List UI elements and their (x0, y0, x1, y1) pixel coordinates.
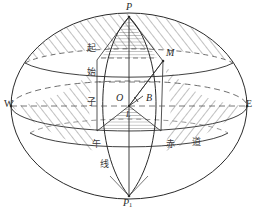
sphere-meridian-figure (0, 0, 258, 213)
label-east: E (246, 99, 252, 109)
prime-meridian-char-2: 子 (87, 98, 96, 107)
diagram-canvas: P P1 M O B L W E 起 始 子 午 线 赤 道 (0, 0, 258, 213)
label-point-b: B (146, 93, 152, 103)
label-north-pole: P (126, 2, 132, 12)
label-south-pole: P1 (123, 198, 132, 209)
label-point-l: L (126, 111, 130, 119)
label-point-m: M (166, 48, 174, 58)
equator-char-0: 赤 (166, 140, 175, 149)
prime-meridian-char-0: 起 (87, 44, 96, 53)
equator-char-1: 道 (192, 138, 201, 147)
label-west: W (4, 99, 13, 109)
prime-meridian-char-1: 始 (87, 68, 96, 77)
label-center-o: O (116, 93, 123, 103)
prime-meridian-char-3: 午 (92, 140, 101, 149)
east-zone-hatch (163, 64, 247, 152)
prime-meridian-char-4: 线 (100, 160, 109, 169)
west-zone-hatch (11, 66, 97, 152)
